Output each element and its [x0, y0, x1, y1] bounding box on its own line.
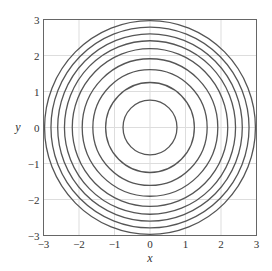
y-tick-label: −1 — [28, 158, 40, 170]
x-tick-label: −2 — [73, 238, 85, 250]
y-tick-labels: −3−2−10123 — [28, 14, 40, 242]
x-tick-label: 0 — [147, 238, 153, 250]
y-tick-label: −2 — [28, 194, 40, 206]
x-tick-label: 3 — [254, 238, 260, 250]
y-tick-label: 0 — [34, 122, 40, 134]
x-tick-label: 1 — [183, 238, 189, 250]
y-axis-label: y — [14, 120, 21, 134]
x-tick-label: 2 — [218, 238, 224, 250]
y-tick-label: 3 — [34, 14, 40, 26]
y-tick-label: 2 — [34, 50, 40, 62]
y-tick-label: −3 — [28, 230, 40, 242]
y-tick-label: 1 — [34, 86, 40, 98]
x-axis-label: x — [146, 251, 153, 265]
contour-chart: −3−2−10123 −3−2−10123 x y — [0, 0, 272, 271]
x-tick-labels: −3−2−10123 — [38, 238, 260, 250]
x-tick-label: −1 — [109, 238, 121, 250]
